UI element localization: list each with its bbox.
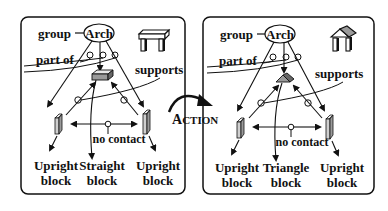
action-transition: ACTION	[169, 94, 218, 127]
upright-block-left-icon	[237, 118, 244, 138]
block-label-upright-right: Upright	[136, 158, 181, 173]
group-label: group	[220, 27, 253, 42]
group-label: group	[38, 26, 71, 41]
arch-root-label: Arch	[85, 26, 114, 41]
action-label: ACTION	[172, 112, 218, 127]
no-contact-label: no contact	[93, 132, 146, 146]
panel-after: group Arch part of supports	[203, 17, 374, 194]
triangle-block-icon	[276, 73, 294, 82]
block-label-straight-2: block	[87, 173, 118, 188]
action-arrow-head-icon	[197, 94, 213, 106]
block-label-upright-right: Upright	[320, 160, 365, 175]
block-label-upright-right-2: block	[327, 175, 358, 190]
block-label-upright-right-2: block	[143, 173, 174, 188]
upright-block-right-icon	[143, 110, 150, 134]
panel-before: group Arch part of supports	[21, 17, 185, 194]
block-label-upright-left: Upright	[215, 160, 260, 175]
block-label-triangle-2: block	[271, 175, 302, 190]
arch-diagram: group Arch part of supports	[0, 0, 388, 211]
supports-label: supports	[315, 66, 363, 81]
arch-root-label: Arch	[266, 27, 295, 42]
block-label-upright-left-2: block	[41, 173, 72, 188]
supports-label: supports	[135, 62, 183, 77]
block-label-upright-left: Upright	[34, 158, 79, 173]
upright-block-left-icon	[55, 114, 62, 134]
block-label-triangle: Triangle	[263, 160, 310, 175]
temple-arch-icon	[331, 26, 356, 51]
no-contact-label: no contact	[276, 135, 329, 149]
block-label-straight: Straight	[79, 158, 125, 173]
straight-block-icon	[92, 70, 113, 80]
block-label-upright-left-2: block	[222, 175, 253, 190]
table-arch-icon	[139, 30, 169, 51]
